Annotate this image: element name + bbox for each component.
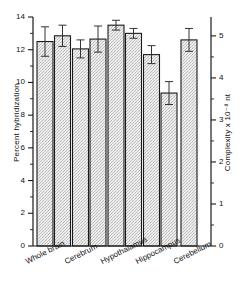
bar	[126, 33, 142, 246]
bar	[144, 55, 160, 246]
bar-chart: Percent hybridization Complexity x 10⁻⁸ …	[0, 0, 243, 284]
bar	[181, 40, 197, 246]
bar-group	[37, 25, 197, 246]
bar	[108, 25, 124, 246]
bar	[55, 36, 71, 246]
bar	[161, 93, 177, 246]
bar	[37, 42, 53, 246]
bar	[73, 49, 89, 246]
bar	[90, 39, 106, 246]
